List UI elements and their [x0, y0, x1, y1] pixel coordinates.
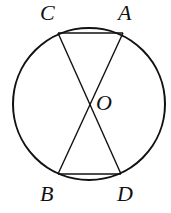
label-A: A: [118, 2, 131, 24]
circle-diagram: [0, 0, 171, 213]
label-O: O: [96, 92, 112, 114]
label-C: C: [40, 2, 55, 24]
label-B: B: [40, 183, 53, 205]
label-D: D: [117, 183, 133, 205]
diagram-canvas: C A O B D: [0, 0, 171, 213]
